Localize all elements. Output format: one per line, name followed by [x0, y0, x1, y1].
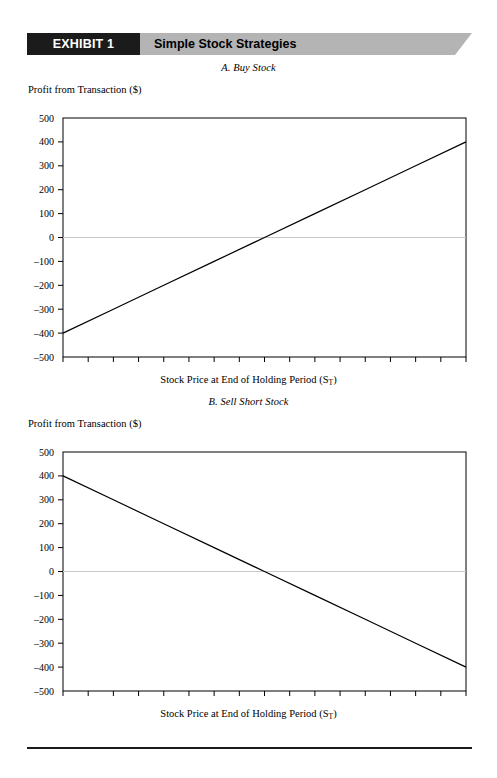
y-axis-tick-label: –300 — [33, 638, 54, 649]
panel-b-x-axis-label-text: Stock Price at End of Holding Period (S — [160, 708, 328, 719]
exhibit-number-label: EXHIBIT 1 — [27, 33, 140, 55]
panel-b-plot-area: 5004003002001000–100–200–300–400–5001600… — [0, 396, 497, 681]
exhibit-banner: EXHIBIT 1 Simple Stock Strategies — [27, 33, 472, 55]
y-axis-tick-label: –100 — [33, 256, 54, 267]
y-axis-tick-label: 0 — [49, 232, 54, 243]
panel-b-x-axis-label: Stock Price at End of Holding Period (ST… — [0, 708, 497, 719]
panel-a-x-axis-label-subscript: T — [329, 378, 334, 387]
y-axis-tick-label: 300 — [39, 494, 54, 505]
y-axis-tick-label: 100 — [39, 542, 54, 553]
y-axis-tick-label: –200 — [33, 614, 54, 625]
y-axis-tick-label: –400 — [33, 328, 54, 339]
y-axis-tick-label: 300 — [39, 160, 54, 171]
panel-a-x-axis-label-tail: ) — [333, 374, 337, 385]
y-axis-tick-label: 200 — [39, 518, 54, 529]
footer-divider-rule — [27, 747, 472, 749]
y-axis-tick-label: 100 — [39, 208, 54, 219]
y-axis-tick-label: 0 — [49, 566, 54, 577]
y-axis-tick-label: 200 — [39, 184, 54, 195]
y-axis-tick-label: –400 — [33, 662, 54, 673]
y-axis-tick-label: –500 — [33, 352, 54, 363]
panel-a-x-axis-label-text: Stock Price at End of Holding Period (S — [160, 374, 328, 385]
y-axis-tick-label: –300 — [33, 304, 54, 315]
panel-a-plot-area: 5004003002001000–100–200–300–400–5001600… — [0, 62, 497, 347]
y-axis-tick-label: 500 — [39, 113, 54, 124]
exhibit-title: Simple Stock Strategies — [154, 33, 296, 55]
y-axis-tick-label: –200 — [33, 280, 54, 291]
panel-a-svg: 5004003002001000–100–200–300–400–5001600… — [0, 62, 497, 362]
panel-b-x-axis-label-tail: ) — [333, 708, 337, 719]
panel-b-svg: 5004003002001000–100–200–300–400–5001600… — [0, 396, 497, 696]
y-axis-tick-label: 500 — [39, 447, 54, 458]
y-axis-tick-label: 400 — [39, 470, 54, 481]
y-axis-tick-label: 400 — [39, 136, 54, 147]
panel-a-x-axis-label: Stock Price at End of Holding Period (ST… — [0, 374, 497, 385]
y-axis-tick-label: –100 — [33, 590, 54, 601]
y-axis-tick-label: –500 — [33, 686, 54, 697]
panel-b-x-axis-label-subscript: T — [329, 712, 334, 721]
